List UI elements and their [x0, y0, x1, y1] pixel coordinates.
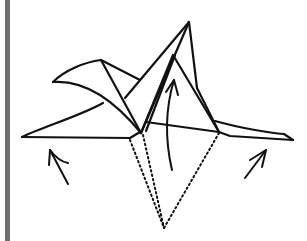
central-peak — [125, 22, 219, 133]
left-wing — [53, 60, 141, 133]
fold-lines — [130, 133, 219, 228]
left-lift-arrow — [49, 150, 68, 184]
left-flap — [22, 103, 140, 138]
right-lift-arrow — [245, 150, 266, 178]
origami-diagram — [0, 0, 307, 241]
